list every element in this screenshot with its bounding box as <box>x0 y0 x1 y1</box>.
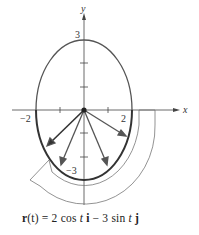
x-axis-arrow-icon <box>173 108 180 112</box>
origin-point <box>81 107 86 112</box>
x-axis-label: x <box>182 104 188 115</box>
x-pos-label: 2 <box>121 113 126 124</box>
vector-function-caption: r(t) = 2 cos t i − 3 sin t j <box>22 212 139 224</box>
ellipse-diagram: y x −2 2 3 −3 <box>0 0 199 210</box>
x-neg-label: −2 <box>20 113 31 124</box>
y-axis-label: y <box>80 3 86 14</box>
y-neg-label: −3 <box>66 165 77 176</box>
y-axis-arrow-icon <box>82 13 86 20</box>
y-pos-label: 3 <box>75 29 80 40</box>
